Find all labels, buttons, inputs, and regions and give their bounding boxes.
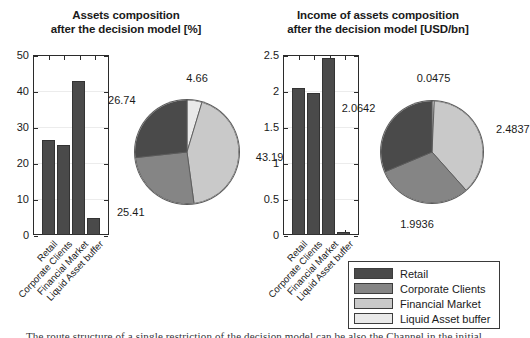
- bar: [322, 58, 335, 235]
- y-axis-tick: [354, 56, 358, 57]
- y-axis-tick-label: 50: [0, 50, 29, 61]
- series-legend: RetailCorporate ClientsFinancial MarketL…: [348, 261, 500, 329]
- legend-swatch: [354, 298, 393, 309]
- pie-data-label: 2.4837: [496, 123, 530, 135]
- y-axis-tick: [104, 200, 108, 201]
- legend-swatch: [354, 268, 393, 279]
- x-axis-tick: [95, 56, 96, 60]
- pie-data-label: 1.9936: [400, 218, 434, 230]
- x-axis-tick: [314, 56, 315, 60]
- bar: [337, 232, 350, 235]
- x-axis-tick: [80, 56, 81, 60]
- pie-data-label: 4.66: [186, 72, 207, 84]
- legend-swatch: [354, 313, 393, 324]
- x-axis-tick: [64, 56, 65, 60]
- chart-title-line-2: after the decision model [USD/bn]: [252, 22, 504, 36]
- y-axis-tick-label: 0.5: [249, 194, 279, 205]
- y-axis-tick-label: 20: [0, 158, 29, 169]
- pie-data-label: 25.41: [117, 206, 145, 218]
- pie-data-label: 0.0475: [417, 72, 451, 84]
- chart-title-assets: Assets composition after the decision mo…: [0, 8, 252, 36]
- caption-text: The route structure of a single restrict…: [0, 330, 505, 338]
- gridline: [34, 127, 108, 128]
- y-axis-tick: [284, 236, 288, 237]
- y-axis-tick: [284, 164, 288, 165]
- legend-item[interactable]: Corporate Clients: [354, 281, 493, 296]
- pie-slice: [135, 152, 194, 204]
- y-axis-tick: [104, 92, 108, 93]
- y-axis-tick: [284, 200, 288, 201]
- bar: [307, 93, 320, 235]
- y-axis-tick: [284, 56, 288, 57]
- legend-item[interactable]: Liquid Asset buffer: [354, 311, 493, 326]
- y-axis-tick-label: 40: [0, 86, 29, 97]
- y-axis-tick: [34, 128, 38, 129]
- chart-title-income: Income of assets composition after the d…: [252, 8, 504, 36]
- gridline: [34, 91, 108, 92]
- y-axis-tick-label: 1.5: [249, 122, 279, 133]
- y-axis-tick: [354, 92, 358, 93]
- panel-assets-composition: Assets composition after the decision mo…: [0, 0, 252, 338]
- y-axis-tick-label: 0: [0, 230, 29, 241]
- legend-item-label: Retail: [400, 268, 428, 280]
- chart-title-line-1: Income of assets composition: [252, 8, 504, 22]
- y-axis-tick: [104, 164, 108, 165]
- y-axis-tick: [354, 236, 358, 237]
- y-axis-tick: [104, 56, 108, 57]
- legend-item-label: Liquid Asset buffer: [400, 313, 490, 325]
- bar: [72, 81, 85, 235]
- y-axis-tick: [354, 200, 358, 201]
- pie-data-label: 26.74: [108, 94, 136, 106]
- y-axis-tick-label: 1: [249, 158, 279, 169]
- y-axis-tick: [104, 236, 108, 237]
- y-axis-tick: [354, 164, 358, 165]
- x-axis-tick: [299, 56, 300, 60]
- bar: [57, 145, 70, 235]
- legend-item[interactable]: Retail: [354, 266, 493, 281]
- y-axis-tick-label: 2: [249, 86, 279, 97]
- bar: [87, 218, 100, 235]
- legend-item[interactable]: Financial Market: [354, 296, 493, 311]
- chart-title-line-2: after the decision model [%]: [0, 22, 252, 36]
- y-axis-tick: [34, 164, 38, 165]
- y-axis-tick-label: 30: [0, 122, 29, 133]
- y-axis-tick: [34, 236, 38, 237]
- chart-title-line-1: Assets composition: [0, 8, 252, 22]
- y-axis-tick: [354, 128, 358, 129]
- y-axis-tick: [284, 128, 288, 129]
- pie-chart-assets: [135, 100, 239, 204]
- y-axis-tick-label: 2.5: [249, 50, 279, 61]
- x-axis-tick: [345, 56, 346, 60]
- x-axis-tick: [49, 56, 50, 60]
- y-axis-tick: [34, 56, 38, 57]
- pie-slice: [135, 100, 187, 158]
- pie-data-label: 2.0642: [342, 102, 376, 114]
- legend-item-label: Financial Market: [400, 298, 481, 310]
- legend-swatch: [354, 283, 393, 294]
- y-axis-tick-label: 0: [249, 230, 279, 241]
- y-axis-tick: [34, 92, 38, 93]
- y-axis-tick: [104, 128, 108, 129]
- page-caption-partial: The route structure of a single restrict…: [0, 330, 505, 338]
- legend-item-label: Corporate Clients: [400, 283, 486, 295]
- y-axis-tick: [284, 92, 288, 93]
- y-axis-tick-label: 10: [0, 194, 29, 205]
- bar: [42, 140, 55, 235]
- bar: [292, 88, 305, 235]
- pie-chart-income: [381, 101, 483, 203]
- y-axis-tick: [34, 200, 38, 201]
